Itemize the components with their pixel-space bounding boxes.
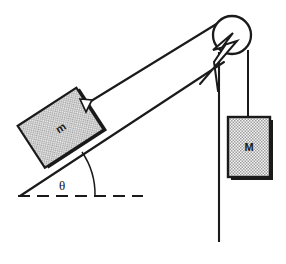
physics-diagram: θ m M bbox=[0, 0, 286, 264]
diagram-canvas: θ m M bbox=[0, 0, 286, 264]
block-big-m: M bbox=[228, 117, 273, 180]
angle-arc bbox=[82, 152, 95, 196]
rope-incline-segment bbox=[83, 20, 223, 106]
angle-label: θ bbox=[59, 178, 65, 193]
block-big-m-label: M bbox=[244, 141, 253, 153]
